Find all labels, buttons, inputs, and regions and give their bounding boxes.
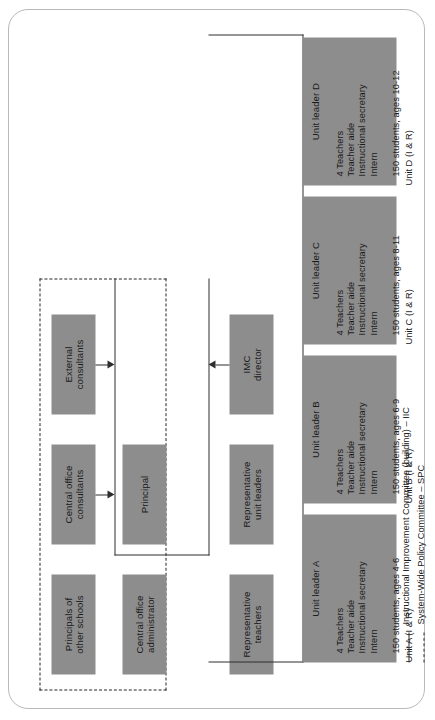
connector-imc-director-to-spine (215, 364, 229, 365)
unit-staff-1: 4 Teachers (334, 607, 345, 653)
arrow-head-external-consultants (107, 361, 114, 369)
box-central-office-administrator: Central office administrator (122, 574, 166, 674)
box-label-line-1: External (62, 346, 74, 382)
box-label-line-1: Representative (240, 591, 252, 657)
iic-connector-top (114, 278, 115, 555)
unit-staff-1: 4 Teachers (334, 448, 345, 494)
unit-caption-unit-d: Unit D (I & R) (403, 130, 413, 185)
unit-staff-4: Intern (368, 152, 379, 176)
unit-box-unit-b: Unit leader B 4 Teachers Teacher aide In… (302, 355, 396, 503)
unit-header: Unit leader C (309, 205, 321, 335)
unit-bus-line-right-cap (208, 34, 303, 35)
legend-line-solid-icon (408, 632, 409, 662)
box-label-line-1: Principals of (62, 597, 74, 651)
diagram-rotation-wrapper: Principals of other schools Central offi… (0, 0, 435, 720)
unit-staff-1: 4 Teachers (334, 130, 345, 176)
box-label-line-1: Central office (133, 595, 145, 653)
unit-box-unit-a: Unit leader A 4 Teachers Teacher aide In… (302, 514, 396, 662)
box-imc-director: IMC director (229, 314, 273, 414)
unit-staff-3: Instructional secretary (356, 84, 367, 176)
box-principals-of-other-schools: Principals of other schools (51, 574, 95, 674)
unit-staff-1: 4 Teachers (334, 289, 345, 335)
box-label-line-2: teachers (251, 605, 263, 643)
box-central-office-consultants: Central office consultants (51, 444, 95, 544)
unit-staff-3: Instructional secretary (356, 243, 367, 335)
unit-staff-3: Instructional secretary (356, 561, 367, 653)
unit-header: Unit leader A (309, 523, 321, 653)
box-label-line-1: Central office (62, 465, 74, 523)
unit-staff-2: Teacher aide (345, 281, 356, 335)
unit-box-unit-c: Unit leader C 4 Teachers Teacher aide In… (302, 196, 396, 344)
legend-label-spc: System-Wide Policy Committee – SPC (415, 464, 425, 624)
box-label-line-1: IMC (240, 355, 252, 373)
unit-staff-2: Teacher aide (345, 440, 356, 494)
box-label-line-1: Principal (138, 475, 150, 513)
legend-label-iic: Instructional Improvement Committee (bui… (400, 406, 410, 624)
unit-staff-4: Intern (368, 470, 379, 494)
unit-box-unit-d: Unit leader D 4 Teachers Teacher aide In… (302, 37, 396, 185)
unit-students: 150 students, ages 10-12 (390, 70, 402, 176)
iic-connector-bottom (208, 278, 209, 555)
arrow-head-central-consultants (107, 491, 114, 499)
unit-staff-2: Teacher aide (345, 122, 356, 176)
unit-staff-4: Intern (368, 311, 379, 335)
box-label-line-2: unit leaders (251, 469, 263, 520)
box-label-line-2: director (251, 348, 263, 381)
box-label-line-2: consultants (73, 339, 85, 389)
box-label-line-2: other schools (73, 595, 85, 653)
box-label-line-2: consultants (73, 469, 85, 519)
box-label-line-1: Representative (240, 461, 252, 527)
box-principal: Principal (122, 444, 166, 544)
unit-students: 150 students, ages 8-11 (390, 235, 402, 335)
unit-bus-line-left-cap (208, 661, 303, 662)
iic-connector-left (114, 554, 209, 555)
box-external-consultants: External consultants (51, 314, 95, 414)
unit-header: Unit leader B (309, 364, 321, 494)
box-representative-teachers: Representative teachers (229, 574, 273, 674)
box-label-line-2: administrator (144, 596, 156, 653)
arrow-head-imc-director (208, 361, 215, 369)
legend-line-dashed-icon (423, 632, 424, 662)
unit-caption-unit-c: Unit C (I & R) (403, 289, 413, 344)
unit-staff-2: Teacher aide (345, 599, 356, 653)
unit-header: Unit leader D (309, 46, 321, 176)
unit-staff-4: Intern (368, 629, 379, 653)
organizational-chart: Principals of other schools Central offi… (9, 10, 426, 710)
box-representative-unit-leaders: Representative unit leaders (229, 444, 273, 544)
unit-staff-3: Instructional secretary (356, 402, 367, 494)
